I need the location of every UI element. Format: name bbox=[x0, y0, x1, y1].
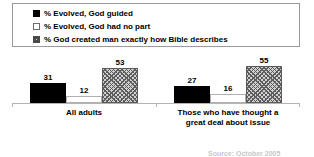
legend-item-evolved-god-guided: % Evolved, God guided bbox=[13, 7, 299, 19]
bar-slot: 16 bbox=[210, 47, 246, 103]
chart-legend: % Evolved, God guided % Evolved, God had… bbox=[12, 3, 300, 47]
legend-item-god-created-man: % God created man exactly how Bible desc… bbox=[13, 33, 299, 45]
bar-value-label: 31 bbox=[44, 73, 53, 82]
bar-value-label: 53 bbox=[116, 58, 125, 67]
bar-chart: % Evolved, God guided % Evolved, God had… bbox=[0, 0, 314, 157]
legend-label: % Evolved, God guided bbox=[44, 9, 133, 18]
bar-slot: 53 bbox=[102, 47, 138, 103]
bar-group-thought-a-great-deal: 27 16 55 Those who have thought a great … bbox=[156, 47, 300, 104]
bar-god-created-man bbox=[246, 66, 282, 103]
bar-group-all-adults: 31 12 53 All adults bbox=[12, 47, 156, 104]
bar-slot: 12 bbox=[66, 47, 102, 103]
category-label-thought-a-great-deal: Those who have thought a great deal abou… bbox=[156, 108, 300, 128]
bar-slot: 27 bbox=[174, 47, 210, 103]
bar-value-label: 12 bbox=[80, 86, 89, 95]
bar-group-bars: 27 16 55 bbox=[156, 47, 300, 103]
bar-evolved-god-no-part bbox=[66, 96, 102, 103]
legend-label: % Evolved, God had no part bbox=[44, 22, 150, 31]
bar-evolved-god-no-part bbox=[210, 94, 246, 103]
bar-value-label: 27 bbox=[188, 76, 197, 85]
bar-god-created-man bbox=[102, 68, 138, 103]
bar-group-bars: 31 12 53 bbox=[12, 47, 156, 103]
bar-slot: 31 bbox=[30, 47, 66, 103]
category-label-all-adults: All adults bbox=[12, 108, 156, 118]
legend-swatch-solid-square-icon bbox=[33, 10, 40, 17]
legend-item-evolved-god-no-part: % Evolved, God had no part bbox=[13, 20, 299, 32]
source-note: Source: October 2005 bbox=[208, 150, 280, 157]
bar-slot: 55 bbox=[246, 47, 282, 103]
bar-evolved-god-guided bbox=[30, 83, 66, 103]
legend-swatch-hatched-square-icon bbox=[33, 36, 40, 43]
legend-swatch-open-square-icon bbox=[33, 23, 40, 30]
bar-evolved-god-guided bbox=[174, 86, 210, 103]
legend-label: % God created man exactly how Bible desc… bbox=[44, 35, 228, 44]
bar-value-label: 55 bbox=[260, 56, 269, 65]
bar-value-label: 16 bbox=[224, 84, 233, 93]
plot-area: 31 12 53 All adults 27 bbox=[0, 47, 314, 157]
